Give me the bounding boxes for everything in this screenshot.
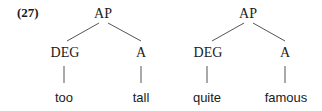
leaf-word: famous [265,90,308,105]
branch-ap-deg-2 [212,23,244,41]
branch-ap-a-1 [108,23,141,41]
node-root-ap: AP [94,6,112,22]
leaf-word: too [55,90,73,105]
leaf-word: quite [193,90,221,105]
branch-ap-deg-1 [67,23,99,41]
branch-ap-a-2 [253,23,285,41]
node-deg: DEG [194,45,223,61]
node-deg: DEG [51,45,80,61]
node-a: A [136,45,146,61]
node-root-ap: AP [239,6,257,22]
leaf-word: tall [133,90,150,105]
node-a: A [280,45,290,61]
